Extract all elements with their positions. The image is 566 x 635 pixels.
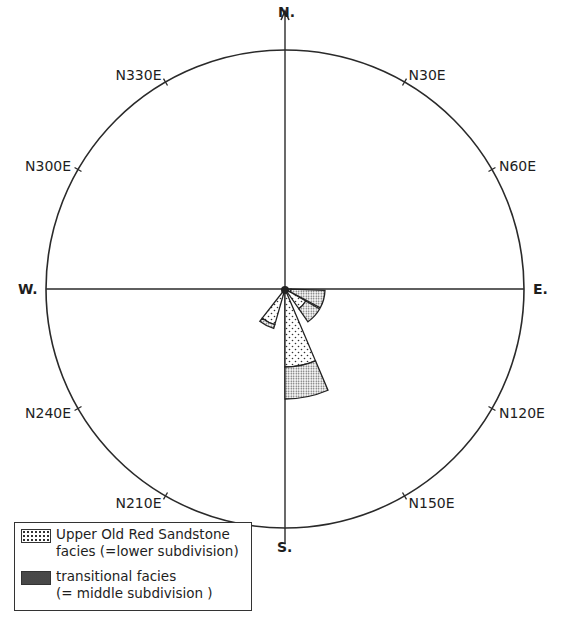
bearing-label: N60E [499, 158, 536, 174]
east-label: E. [533, 281, 548, 297]
bearing-label: N120E [499, 405, 545, 421]
bearing-label: N30E [409, 67, 446, 83]
west-label: W. [18, 281, 38, 297]
bearing-label: N300E [25, 158, 71, 174]
rose-petals [260, 286, 328, 399]
bearing-label: N150E [409, 495, 455, 511]
legend-label-line2: (= middle subdivision ) [56, 585, 213, 602]
south-label: S. [277, 539, 292, 555]
compass-axes [46, 11, 524, 544]
rose-petal [285, 361, 328, 399]
bearing-label: N240E [25, 405, 71, 421]
legend: Upper Old Red Sandstone facies (=lower s… [14, 522, 252, 611]
legend-label-line1: Upper Old Red Sandstone [56, 526, 239, 543]
rose-petal [262, 289, 285, 325]
dense-pattern-swatch [21, 571, 51, 585]
bearing-label: N330E [115, 67, 161, 83]
legend-label-line1: transitional facies [56, 568, 213, 585]
legend-item-lower: Upper Old Red Sandstone facies (=lower s… [21, 526, 239, 560]
legend-label-line2: facies (=lower subdivision) [56, 543, 239, 560]
legend-item-middle: transitional facies (= middle subdivisio… [21, 568, 213, 602]
bearing-label: N210E [115, 495, 161, 511]
north-label: N. [278, 4, 295, 20]
dotted-pattern-swatch [21, 529, 51, 543]
